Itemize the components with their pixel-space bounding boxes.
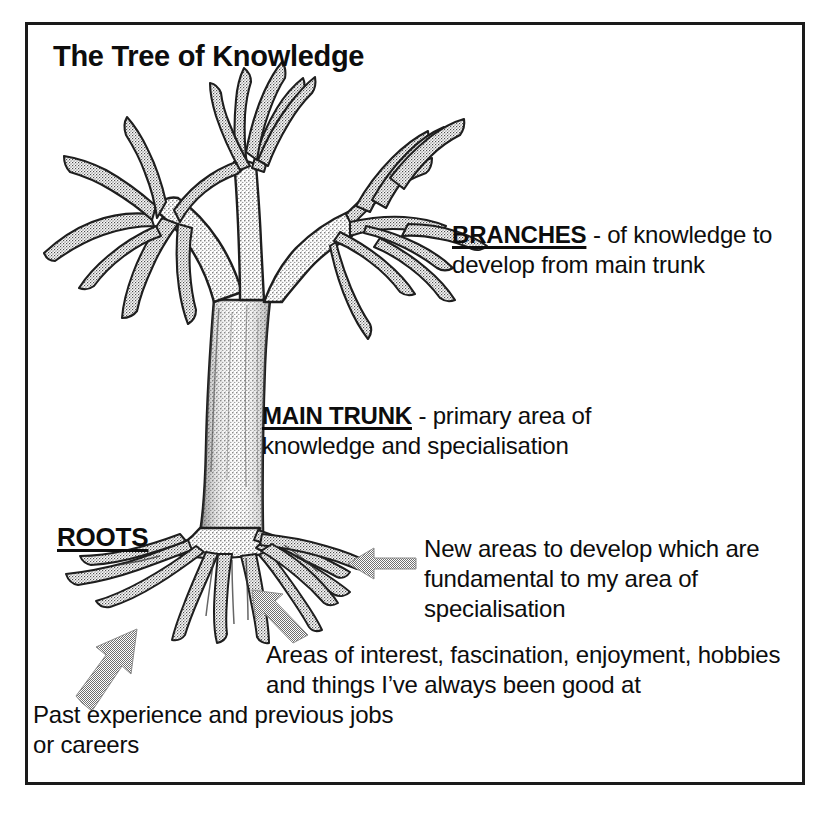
- past-experience-annotation: Past experience and previous jobs or car…: [33, 700, 413, 760]
- roots-label: ROOTS: [57, 521, 148, 554]
- page-title: The Tree of Knowledge: [53, 38, 364, 75]
- main-trunk-annotation: MAIN TRUNK - primary area of knowledge a…: [262, 371, 682, 462]
- branches-annotation: BRANCHES - of knowledge to develop from …: [452, 190, 812, 281]
- branches-label: BRANCHES: [452, 221, 586, 248]
- main-trunk-label: MAIN TRUNK: [262, 402, 412, 429]
- tree-of-knowledge-diagram: The Tree of Knowledge BRANCHES - of know…: [0, 0, 832, 823]
- new-areas-annotation: New areas to develop which are fundament…: [424, 534, 800, 625]
- areas-of-interest-annotation: Areas of interest, fascination, enjoymen…: [266, 640, 806, 700]
